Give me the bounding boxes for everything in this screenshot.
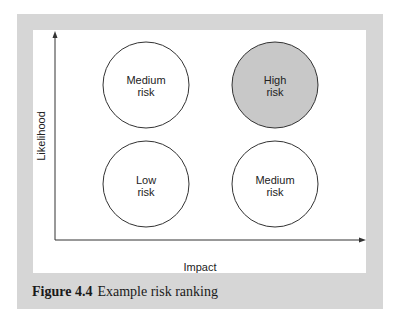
cell-label-line2: risk [137,186,155,198]
cell-label-line1: High [264,74,287,86]
x-axis-label: Impact [183,261,216,273]
cell-top-right: High risk [232,42,318,128]
cell-label-line1: Medium [255,174,294,186]
cell-bottom-right: Medium risk [232,141,318,227]
risk-matrix-diagram: Medium risk High risk Low risk Medium ri… [0,0,401,325]
cell-label-line2: risk [266,86,284,98]
cell-label-line1: Medium [126,74,165,86]
figure-number: Figure 4.4 [32,284,92,299]
cell-top-left: Medium risk [103,42,189,128]
cell-label-line2: risk [266,186,284,198]
figure-caption-text: Example risk ranking [97,284,218,299]
y-axis-label: Likelihood [35,111,47,161]
figure-caption: Figure 4.4Example risk ranking [32,284,218,300]
cell-bottom-left: Low risk [103,141,189,227]
y-axis-arrow-icon [53,31,58,38]
cell-label-line1: Low [136,174,156,186]
x-axis-arrow-icon [359,238,366,243]
cell-label-line2: risk [137,86,155,98]
